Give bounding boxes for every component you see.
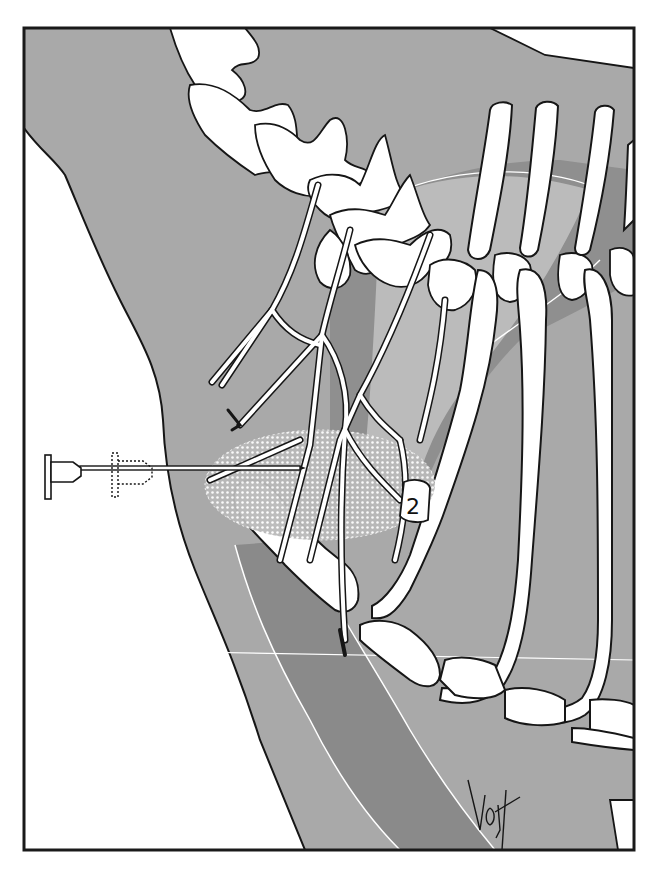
rib-label: 2 — [406, 494, 420, 519]
illustration-canvas: 2 — [0, 0, 654, 871]
needle — [80, 466, 306, 470]
anatomical-illustration: 2 — [0, 0, 654, 871]
